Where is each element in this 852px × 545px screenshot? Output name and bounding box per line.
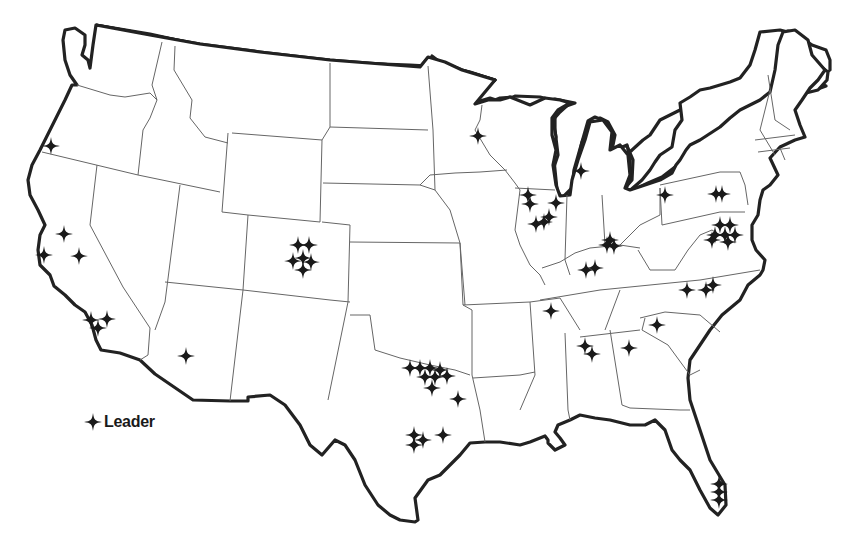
map-legend: Leader	[84, 413, 155, 431]
legend-label: Leader	[104, 413, 155, 431]
four-point-star-icon	[84, 413, 102, 431]
us-map	[0, 0, 852, 545]
